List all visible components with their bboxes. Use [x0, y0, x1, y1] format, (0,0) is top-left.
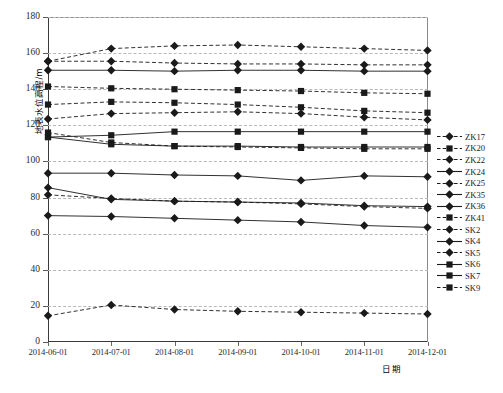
- y-axis-title: 地表水位高程/m: [32, 41, 44, 161]
- legend-item-ZK22[interactable]: ZK22: [436, 154, 503, 166]
- y-tick-label: 60: [0, 228, 40, 238]
- data-point-marker: [445, 237, 453, 245]
- legend-key-icon: [436, 154, 463, 165]
- legend-item-label: ZK22: [465, 155, 485, 165]
- legend-key-icon: [436, 236, 463, 247]
- data-point-marker: [445, 167, 453, 175]
- legend-item-label: ZK25: [465, 178, 485, 188]
- data-point-marker: [446, 261, 452, 267]
- gridline: [48, 17, 428, 18]
- y-tick-mark: [43, 306, 48, 307]
- x-tick-mark: [111, 342, 112, 346]
- gridline: [48, 234, 428, 235]
- legend-key-icon: [436, 201, 463, 212]
- legend-item-SK9[interactable]: SK9: [436, 282, 503, 294]
- legend-item-SK5[interactable]: SK5: [436, 247, 503, 259]
- data-point-marker: [446, 273, 452, 279]
- gridline: [48, 89, 428, 90]
- gridline: [48, 306, 428, 307]
- legend-item-label: SK4: [465, 236, 480, 246]
- legend-item-ZK36[interactable]: ZK36: [436, 201, 503, 213]
- legend-item-label: SK2: [465, 225, 480, 235]
- legend-item-ZK24[interactable]: ZK24: [436, 166, 503, 178]
- data-point-marker: [445, 179, 453, 187]
- y-tick-label: 120: [0, 119, 40, 129]
- gridline: [48, 198, 428, 199]
- data-point-marker: [445, 249, 453, 257]
- legend-item-label: ZK17: [465, 132, 485, 142]
- legend-key-icon: [436, 270, 463, 281]
- data-point-marker: [445, 191, 453, 199]
- y-tick-mark: [43, 270, 48, 271]
- legend-key-icon: [436, 131, 463, 142]
- legend-item-label: ZK35: [465, 190, 485, 200]
- legend-item-ZK35[interactable]: ZK35: [436, 189, 503, 201]
- legend-item-ZK25[interactable]: ZK25: [436, 177, 503, 189]
- y-tick-mark: [43, 234, 48, 235]
- legend-item-SK6[interactable]: SK6: [436, 259, 503, 271]
- data-point-marker: [446, 284, 452, 290]
- y-tick-label: 40: [0, 264, 40, 274]
- x-tick-mark: [428, 342, 429, 346]
- legend-item-SK2[interactable]: SK2: [436, 224, 503, 236]
- legend-key-icon: [436, 212, 463, 223]
- y-tick-mark: [43, 17, 48, 18]
- legend-item-label: ZK20: [465, 143, 485, 153]
- legend-item-label: ZK36: [465, 201, 485, 211]
- legend-item-ZK20[interactable]: ZK20: [436, 143, 503, 155]
- data-point-marker: [445, 225, 453, 233]
- x-tick-mark: [48, 342, 49, 346]
- legend-key-icon: [436, 224, 463, 235]
- x-tick-mark: [364, 342, 365, 346]
- plot-right-border: [427, 17, 428, 342]
- plot-area: [48, 17, 428, 342]
- gridline: [48, 53, 428, 54]
- x-tick-mark: [175, 342, 176, 346]
- legend-item-SK4[interactable]: SK4: [436, 235, 503, 247]
- data-point-marker: [446, 215, 452, 221]
- x-tick-label: 2014-12-01: [388, 347, 468, 357]
- y-tick-mark: [43, 89, 48, 90]
- gridline: [48, 270, 428, 271]
- data-point-marker: [445, 133, 453, 141]
- y-tick-label: 80: [0, 192, 40, 202]
- legend-item-label: ZK41: [465, 213, 485, 223]
- legend-key-icon: [436, 282, 463, 293]
- legend-key-icon: [436, 178, 463, 189]
- legend-key-icon: [436, 189, 463, 200]
- legend-key-icon: [436, 143, 463, 154]
- gridline: [48, 161, 428, 162]
- y-tick-label: 20: [0, 300, 40, 310]
- y-tick-mark: [43, 161, 48, 162]
- y-tick-label: 0: [0, 336, 40, 346]
- x-tick-mark: [301, 342, 302, 346]
- x-tick-mark: [238, 342, 239, 346]
- legend: ZK17ZK20ZK22ZK24ZK25ZK35ZK36ZK41SK2SK4SK…: [436, 131, 503, 293]
- y-tick-label: 160: [0, 47, 40, 57]
- data-point-marker: [445, 156, 453, 164]
- legend-item-label: SK6: [465, 259, 480, 269]
- y-tick-label: 100: [0, 155, 40, 165]
- legend-item-label: SK7: [465, 271, 480, 281]
- legend-item-label: SK5: [465, 248, 480, 258]
- y-tick-label: 180: [0, 11, 40, 21]
- data-point-marker: [445, 202, 453, 210]
- y-tick-mark: [43, 125, 48, 126]
- x-axis-title: 日期: [382, 362, 402, 374]
- data-point-marker: [446, 145, 452, 151]
- legend-key-icon: [436, 259, 463, 270]
- legend-item-ZK41[interactable]: ZK41: [436, 212, 503, 224]
- y-tick-mark: [43, 53, 48, 54]
- legend-item-label: ZK24: [465, 167, 485, 177]
- y-tick-mark: [43, 198, 48, 199]
- legend-key-icon: [436, 166, 463, 177]
- chart-root: 地表水位高程/m 020406080100120140160180 2014-0…: [0, 0, 503, 393]
- gridline: [48, 125, 428, 126]
- y-tick-label: 140: [0, 83, 40, 93]
- legend-item-ZK17[interactable]: ZK17: [436, 131, 503, 143]
- legend-key-icon: [436, 247, 463, 258]
- legend-item-label: SK9: [465, 283, 480, 293]
- legend-item-SK7[interactable]: SK7: [436, 270, 503, 282]
